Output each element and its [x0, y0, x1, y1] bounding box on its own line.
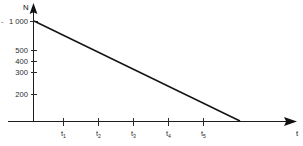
x-tick: t1 [61, 118, 66, 140]
x-tick: t4 [166, 118, 171, 140]
data-series-group [34, 21, 240, 121]
y-tick-label: 1 000 [9, 17, 28, 26]
y-tick-label: 400 [15, 57, 28, 66]
x-tick-subscript: 5 [203, 133, 206, 139]
x-axis-title: t [296, 129, 299, 138]
decay-line [34, 21, 240, 121]
x-tick-subscript: 1 [63, 133, 66, 139]
x-tick-label: t5 [201, 129, 206, 139]
y-axis-title: N [23, 3, 29, 12]
x-tick-label: t4 [166, 129, 171, 139]
x-tick: t5 [201, 118, 206, 140]
left-edge-dash-mark: - [1, 17, 4, 26]
x-tick: t3 [131, 118, 136, 140]
y-tick-label: 200 [15, 90, 28, 99]
decay-line-chart: N t 1 000 500 400 300 [0, 0, 303, 146]
x-tick-subscript: 4 [168, 133, 171, 139]
x-tick-group: t1 t2 t3 t4 [61, 118, 206, 140]
chart-figure: N t 1 000 500 400 300 [0, 0, 303, 146]
x-tick-label: t2 [96, 129, 101, 139]
x-tick-label: t1 [61, 129, 66, 139]
x-tick-label: t3 [131, 129, 136, 139]
x-tick-subscript: 2 [98, 133, 101, 139]
y-tick-label: 500 [15, 46, 28, 55]
x-tick: t2 [96, 118, 101, 140]
x-tick-subscript: 3 [133, 133, 136, 139]
y-tick-label: 300 [15, 68, 28, 77]
x-axis-group: t [8, 117, 299, 138]
